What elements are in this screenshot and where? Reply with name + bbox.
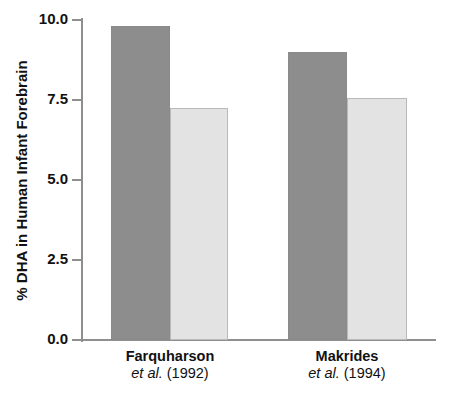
x-group-label: Farquharsonet al. (1992) (80, 348, 260, 382)
bar-dark-bar-2 (288, 52, 347, 340)
bar-light-bar-1 (170, 108, 228, 340)
x-group-author: Makrides (257, 348, 437, 365)
y-tick-mark (72, 19, 81, 21)
bar-dark-bar-1 (111, 26, 170, 340)
y-tick-mark (72, 99, 81, 101)
x-group-etal: et al. (308, 365, 339, 381)
y-tick-label: 2.5 (6, 250, 68, 267)
y-tick-label: 0.0 (6, 330, 68, 347)
x-group-citation: et al. (1992) (80, 365, 260, 382)
x-group-etal: et al. (131, 365, 162, 381)
chart-figure: % DHA in Human Infant Forebrain 0.02.55.… (0, 0, 449, 401)
bar-light-bar-2 (347, 98, 407, 340)
plot-area (82, 20, 435, 340)
y-tick-mark (72, 259, 81, 261)
y-tick-label: 5.0 (6, 170, 68, 187)
y-tick-mark (72, 179, 81, 181)
x-group-author: Farquharson (80, 348, 260, 365)
y-tick-label: 10.0 (6, 10, 68, 27)
y-tick-label: 7.5 (6, 90, 68, 107)
x-group-label: Makrideset al. (1994) (257, 348, 437, 382)
y-tick-mark (72, 339, 81, 341)
x-group-citation: et al. (1994) (257, 365, 437, 382)
